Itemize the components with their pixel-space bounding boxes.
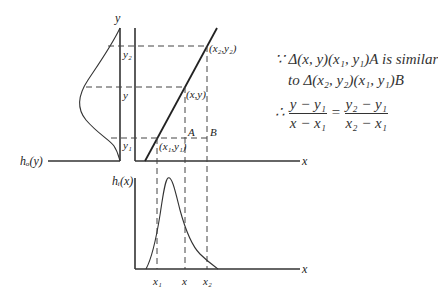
point-b-label: B bbox=[210, 126, 217, 138]
equals-sign: = bbox=[331, 104, 341, 120]
y1-tick-label: y₁ bbox=[122, 139, 132, 151]
x-tick-label: x bbox=[181, 275, 187, 287]
output-distribution-curve bbox=[79, 28, 120, 161]
point-x-y-label: (x,y) bbox=[186, 88, 206, 101]
output-distribution-label: hₒ(y) bbox=[20, 154, 43, 168]
y-tick-label: y bbox=[122, 89, 128, 101]
point-a-label: A bbox=[187, 126, 195, 138]
equation-ratio: ∴ y − y₁ x − x₁ = y₂ − y₁ x₂ − x₁ bbox=[275, 97, 388, 131]
x2-tick-label: x₂ bbox=[202, 275, 212, 287]
rhs-fraction: y₂ − y₁ x₂ − x₁ bbox=[345, 97, 388, 131]
input-x-label: x bbox=[301, 262, 308, 276]
point-x2-y2-label: (x₂,y₂) bbox=[209, 42, 237, 55]
input-distribution-label: hᵢ(x) bbox=[112, 174, 133, 188]
lhs-denominator: x − x₁ bbox=[289, 114, 327, 131]
equation-line-1: ∵ Δ(x, y)(x₁, y₁)A is similar bbox=[275, 52, 438, 67]
lhs-fraction: y − y₁ x − x₁ bbox=[289, 97, 327, 131]
equation-line-2: to Δ(x₂, y₂)(x₁, y₁)B bbox=[288, 73, 404, 88]
transfer-x-label: x bbox=[301, 154, 308, 168]
y-axis-label: y bbox=[114, 11, 121, 25]
therefore-symbol: ∴ bbox=[275, 104, 285, 120]
rhs-numerator: y₂ − y₁ bbox=[345, 97, 388, 114]
y2-tick-label: y₂ bbox=[122, 48, 132, 60]
lhs-numerator: y − y₁ bbox=[289, 97, 327, 114]
x1-tick-label: x₁ bbox=[152, 275, 162, 287]
point-x1-y1-label: (x₁,y₁) bbox=[159, 140, 187, 153]
rhs-denominator: x₂ − x₁ bbox=[345, 114, 388, 131]
